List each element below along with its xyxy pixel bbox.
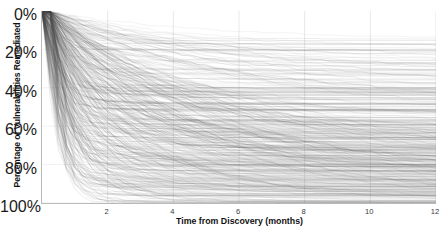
y-tick-label: 80% [0, 160, 37, 178]
x-axis-title: Time from Discovery (months) [41, 216, 438, 226]
y-tick-label: 100% [0, 198, 37, 216]
x-tick-label: 12 [421, 207, 444, 216]
x-tick-label: 8 [290, 207, 318, 216]
y-tick-label: 60% [0, 121, 37, 139]
spaghetti-lines [42, 11, 436, 203]
x-tick-label: 6 [224, 207, 252, 216]
plot-area [41, 11, 436, 204]
y-tick-label: 0% [0, 6, 37, 24]
x-tick-label: 4 [158, 207, 186, 216]
x-tick-label: 2 [93, 207, 121, 216]
y-tick-label: 20% [0, 44, 37, 62]
x-tick-label: 10 [355, 207, 383, 216]
y-tick-label: 40% [0, 83, 37, 101]
